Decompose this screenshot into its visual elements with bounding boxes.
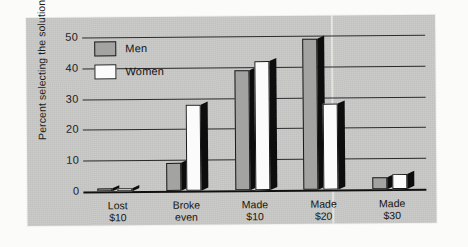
y-axis-tick-labels: 01020304050	[26, 15, 435, 18]
y-tick-label-50: 50	[38, 31, 78, 43]
bar-group-3	[230, 30, 279, 190]
bar-group-5	[367, 29, 416, 189]
x-axis-tick-labels: Lost$10BrokeevenMade$10Made$20Made$30	[26, 15, 435, 18]
gridlines	[26, 15, 435, 18]
x-tick-label-line: $10	[81, 211, 155, 224]
bar-women-2	[186, 104, 202, 190]
bar-women-3	[254, 61, 270, 190]
bar-men-4	[302, 39, 318, 190]
scanned-page: Percent selecting the solution 010203040…	[0, 0, 468, 247]
bar-shadow	[338, 100, 346, 189]
x-tick-label-line: Made	[355, 197, 429, 210]
plot-area: Percent selecting the solution 010203040…	[26, 15, 437, 226]
chart-panel: Percent selecting the solution 010203040…	[26, 15, 437, 226]
x-tick-label-5: Made$30	[355, 197, 429, 222]
x-tick-label-line: $30	[355, 209, 429, 222]
bar-face	[186, 104, 202, 190]
x-tick-label-line: Made	[218, 198, 292, 211]
bar-face	[372, 177, 387, 189]
y-tick-label-40: 40	[38, 61, 78, 73]
x-tick-label-line: Lost	[81, 199, 155, 212]
bar-face	[302, 39, 318, 190]
y-tick-label-10: 10	[39, 154, 79, 166]
x-tick-label-3: Made$10	[218, 198, 292, 223]
x-tick-label-line: $10	[218, 210, 292, 223]
bar-face	[234, 70, 250, 190]
bar-group-4	[298, 29, 347, 189]
bar-face	[118, 188, 133, 191]
x-tick-label-line: $20	[287, 209, 361, 222]
bar-shadow	[133, 185, 140, 191]
bar-face	[98, 188, 113, 191]
bar-face	[254, 61, 270, 190]
y-tick-label-0: 0	[39, 185, 79, 197]
bar-group-2	[161, 31, 210, 191]
x-tick-label-2: Brokeeven	[149, 198, 223, 223]
bar-face	[166, 163, 181, 191]
y-tick-label-30: 30	[39, 92, 79, 104]
x-tick-label-4: Made$20	[287, 197, 361, 222]
bar-women-4	[323, 103, 339, 189]
x-tick-label-line: Made	[287, 197, 361, 210]
bar-shadow	[407, 170, 414, 189]
bar-women-1	[118, 188, 133, 191]
x-tick-label-1: Lost$10	[81, 199, 155, 224]
bar-group-1	[92, 31, 141, 191]
y-tick-label-20: 20	[39, 123, 79, 135]
bar-face	[323, 103, 339, 189]
bar-women-5	[392, 174, 407, 190]
bar-men-5	[372, 177, 387, 189]
bar-men-1	[98, 188, 113, 191]
bar-men-3	[234, 70, 250, 190]
bar-men-2	[166, 163, 181, 191]
bar-shadow	[269, 58, 277, 191]
bar-face	[392, 174, 407, 190]
bar-shadow	[201, 101, 209, 190]
bar-groups	[26, 15, 435, 18]
x-tick-label-line: Broke	[149, 198, 223, 211]
x-tick-label-line: even	[149, 210, 223, 223]
